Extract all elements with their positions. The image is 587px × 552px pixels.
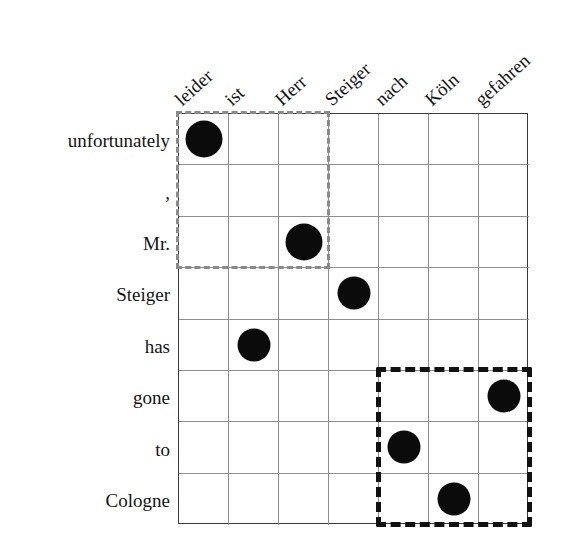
alignment-cell[interactable] [379, 474, 429, 525]
alignment-cell[interactable] [179, 217, 229, 268]
alignment-cell[interactable] [179, 114, 229, 165]
row-header-gone: gone [2, 388, 170, 407]
alignment-grid [178, 113, 528, 524]
alignment-cell[interactable] [279, 165, 329, 216]
alignment-cell[interactable] [479, 371, 529, 422]
column-header-herr: Herr [271, 72, 310, 109]
alignment-cell[interactable] [479, 114, 529, 165]
row-header-mr: Mr. [2, 234, 170, 253]
alignment-cell[interactable] [329, 268, 379, 319]
row-header-comma: , [2, 183, 170, 202]
alignment-cell[interactable] [379, 422, 429, 473]
alignment-cell[interactable] [429, 268, 479, 319]
row-header-has: has [2, 337, 170, 356]
row-header-steiger: Steiger [2, 285, 170, 304]
alignment-cell[interactable] [429, 217, 479, 268]
alignment-cell[interactable] [229, 268, 279, 319]
column-header-leider: leider [171, 66, 216, 109]
alignment-cell[interactable] [479, 474, 529, 525]
alignment-cell[interactable] [329, 371, 379, 422]
alignment-cell[interactable] [229, 165, 279, 216]
alignment-cell[interactable] [479, 268, 529, 319]
alignment-cell[interactable] [179, 422, 229, 473]
alignment-cell[interactable] [329, 114, 379, 165]
column-header-nach: nach [371, 71, 410, 109]
alignment-dot [437, 483, 470, 516]
row-header-group: unfortunately , Mr. Steiger has gone to … [0, 113, 170, 524]
alignment-cell[interactable] [179, 165, 229, 216]
alignment-cell[interactable] [429, 422, 479, 473]
alignment-cell[interactable] [179, 268, 229, 319]
alignment-cell[interactable] [379, 165, 429, 216]
alignment-dot [387, 431, 420, 464]
alignment-dot [185, 121, 222, 158]
column-header-gefahren: gefahren [471, 50, 533, 109]
alignment-cell[interactable] [279, 268, 329, 319]
alignment-cell[interactable] [329, 217, 379, 268]
alignment-cell[interactable] [329, 320, 379, 371]
alignment-cell[interactable] [379, 217, 429, 268]
alignment-cell[interactable] [279, 371, 329, 422]
alignment-cell[interactable] [279, 474, 329, 525]
alignment-cell[interactable] [379, 320, 429, 371]
alignment-cell[interactable] [179, 474, 229, 525]
alignment-cell[interactable] [429, 474, 479, 525]
alignment-cell[interactable] [479, 422, 529, 473]
alignment-cell[interactable] [229, 474, 279, 525]
alignment-cell[interactable] [479, 320, 529, 371]
alignment-matrix-figure: leider ist Herr Steiger nach Köln gefahr… [0, 0, 587, 552]
alignment-cell[interactable] [429, 371, 479, 422]
alignment-cell[interactable] [379, 371, 429, 422]
alignment-cell[interactable] [179, 320, 229, 371]
row-header-cologne: Cologne [2, 491, 170, 510]
row-header-unfortunately: unfortunately [2, 131, 170, 150]
column-header-koln: Köln [421, 69, 462, 109]
alignment-cell[interactable] [229, 422, 279, 473]
alignment-dot [237, 328, 270, 361]
alignment-cell[interactable] [379, 114, 429, 165]
alignment-cell[interactable] [329, 422, 379, 473]
column-header-group: leider ist Herr Steiger nach Köln gefahr… [178, 0, 587, 113]
alignment-cell[interactable] [479, 165, 529, 216]
column-header-steiger: Steiger [321, 59, 374, 109]
alignment-cell[interactable] [429, 165, 479, 216]
alignment-cell[interactable] [279, 114, 329, 165]
column-header-ist: ist [221, 83, 247, 109]
alignment-cell[interactable] [229, 320, 279, 371]
alignment-dot [285, 223, 322, 260]
alignment-cell[interactable] [479, 217, 529, 268]
alignment-cell[interactable] [229, 371, 279, 422]
alignment-dot [488, 380, 521, 413]
alignment-cell[interactable] [379, 268, 429, 319]
alignment-cell[interactable] [179, 371, 229, 422]
alignment-cell[interactable] [279, 422, 329, 473]
row-header-to: to [2, 440, 170, 459]
alignment-cell[interactable] [229, 114, 279, 165]
alignment-dot [337, 277, 370, 310]
alignment-cell[interactable] [279, 217, 329, 268]
alignment-cell[interactable] [279, 320, 329, 371]
alignment-cell[interactable] [429, 114, 479, 165]
alignment-cell[interactable] [329, 165, 379, 216]
alignment-cell[interactable] [229, 217, 279, 268]
alignment-cell[interactable] [329, 474, 379, 525]
alignment-cell[interactable] [429, 320, 479, 371]
